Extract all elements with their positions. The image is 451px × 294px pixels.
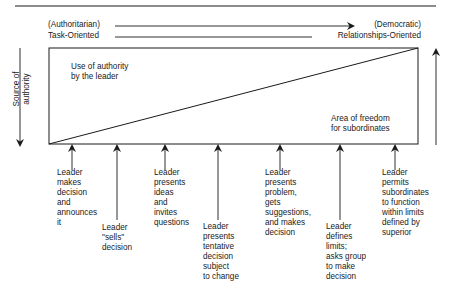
behavior-label-6: Leader defines limits; asks group to mak… <box>326 222 366 282</box>
authoritarian-label: (Authoritarian) <box>48 20 100 30</box>
behavior-label-4: Leader presents tentative decision subje… <box>203 222 239 282</box>
relationships-oriented-label: Relationships-Oriented <box>314 31 421 41</box>
democratic-label: (Democratic) <box>369 20 421 30</box>
behavior-label-1: Leader makes decision and announces it <box>57 168 97 228</box>
behavior-label-5: Leader presents problem, gets suggestion… <box>265 168 311 238</box>
behavior-label-2: Leader "sells" decision <box>102 223 132 253</box>
source-of-authority-label: Source of authority <box>12 64 32 114</box>
behavior-label-3: Leader presents ideas and invites questi… <box>154 168 189 228</box>
leader-authority-label: Use of authority by the leader <box>71 62 128 82</box>
behavior-label-7: Leader permits subordinates to function … <box>382 168 429 238</box>
subordinate-freedom-label: Area of freedom for subordinates <box>331 114 390 134</box>
task-oriented-label: Task-Oriented <box>48 31 99 41</box>
